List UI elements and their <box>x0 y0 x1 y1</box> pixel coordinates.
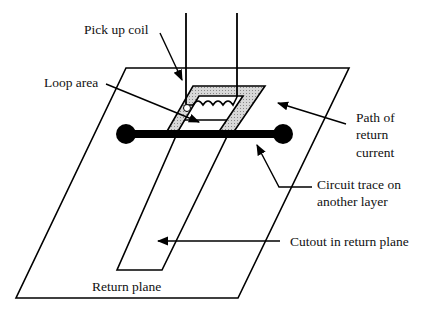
path-return-arrow <box>278 103 346 124</box>
cutout-slot <box>117 120 235 270</box>
label-path-line2: return <box>356 127 388 142</box>
label-cutout: Cutout in return plane <box>290 234 409 249</box>
label-loop-area: Loop area <box>44 75 98 90</box>
label-path-line3: current <box>356 145 394 160</box>
coil-junction <box>184 105 191 112</box>
return-plane-diagram: Pick up coil Loop area Path of return cu… <box>0 0 427 313</box>
label-trace-line2: another layer <box>317 194 388 209</box>
label-pickup-coil: Pick up coil <box>84 22 149 37</box>
pickup-coil-arrow <box>160 33 182 80</box>
trace-pad-right <box>273 124 293 144</box>
label-trace-line1: Circuit trace on <box>317 177 401 192</box>
label-return-plane: Return plane <box>92 279 161 294</box>
label-path-line1: Path of <box>356 110 395 125</box>
circuit-trace-arrow <box>257 145 312 187</box>
trace-pad-left <box>116 124 136 144</box>
